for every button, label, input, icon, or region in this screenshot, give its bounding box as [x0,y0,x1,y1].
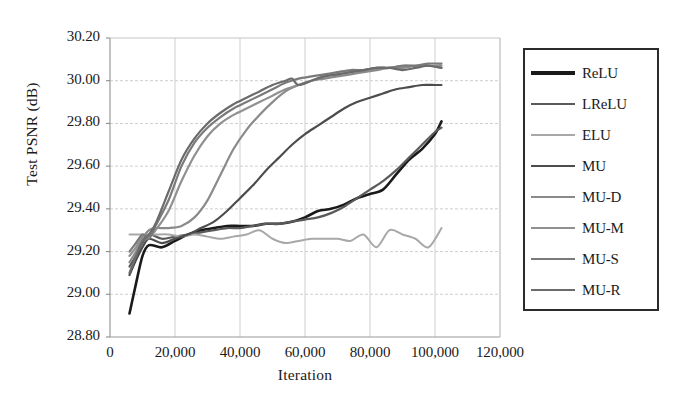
legend-label: MU-D [582,190,621,205]
legend-label: ReLU [582,66,618,81]
chart-legend: ReLULReLUELUMUMU-DMU-MMU-SMU-R [523,48,659,311]
series-line-lrelu [130,128,442,267]
legend-label: MU-R [582,283,620,298]
legend-swatch-line-icon [531,134,575,137]
legend-item-mu: MU [531,151,655,181]
y-tick-label: 29.40 [38,199,100,216]
legend-swatch-line-icon [531,289,575,292]
legend-item-relu: ReLU [531,58,655,88]
data-series-layer [130,63,442,313]
legend-swatch-line-icon [531,71,575,74]
y-tick-label: 28.80 [38,327,100,344]
legend-swatch-line-icon [531,227,575,230]
y-tick-label: 29.80 [38,113,100,130]
legend-item-mu-m: MU-M [531,213,655,243]
y-tick-label: 29.00 [38,284,100,301]
legend-item-mu-d: MU-D [531,182,655,212]
y-tick-label: 30.00 [38,71,100,88]
legend-label: MU-S [582,252,619,267]
legend-item-lrelu: LReLU [531,89,655,119]
legend-swatch-line-icon [531,196,575,199]
chart-figure: Test PSNR (dB) Iteration 28.8029.0029.20… [0,0,675,411]
legend-label: MU-M [582,221,624,236]
legend-swatch-line-icon [531,165,575,168]
series-line-mu-d [130,66,442,263]
series-line-mu-r [130,66,442,273]
y-tick-label: 30.20 [38,28,100,45]
legend-label: ELU [582,128,611,143]
x-axis-title: Iteration [110,366,500,384]
legend-swatch-line-icon [531,103,575,106]
y-tick-label: 29.60 [38,156,100,173]
legend-item-mu-r: MU-R [531,275,655,305]
legend-label: MU [582,159,606,174]
legend-item-elu: ELU [531,120,655,150]
legend-item-mu-s: MU-S [531,244,655,274]
x-tick-label: 120,000 [460,344,540,361]
legend-label: LReLU [582,97,627,112]
y-tick-label: 29.20 [38,242,100,259]
legend-swatch-line-icon [531,258,575,261]
